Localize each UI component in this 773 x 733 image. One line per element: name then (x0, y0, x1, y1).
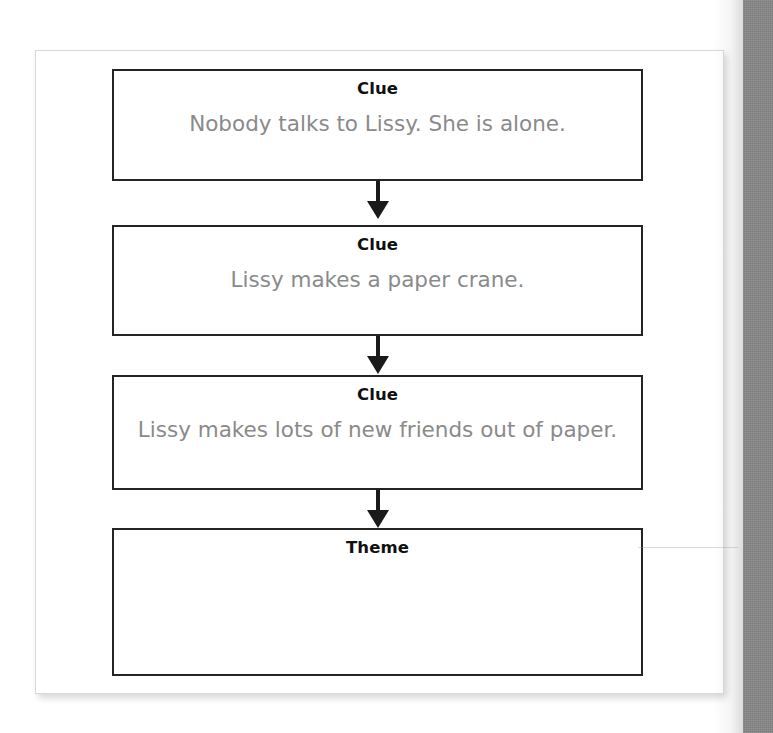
worksheet-card: Clue Nobody talks to Lissy. She is alone… (35, 50, 724, 694)
flow-node-clue-1[interactable]: Clue Nobody talks to Lissy. She is alone… (112, 69, 643, 181)
flow-chart: Clue Nobody talks to Lissy. She is alone… (112, 69, 643, 676)
connector-arrow-3 (112, 490, 643, 528)
page-edge-shadow (714, 0, 744, 733)
flow-node-text: Lissy makes lots of new friends out of p… (126, 416, 629, 444)
scan-gutter-strip (743, 0, 773, 733)
flow-node-label: Clue (126, 79, 629, 100)
flow-node-label: Clue (126, 385, 629, 406)
flow-node-clue-2[interactable]: Clue Lissy makes a paper crane. (112, 225, 643, 336)
scanned-page: Clue Nobody talks to Lissy. She is alone… (0, 0, 773, 733)
flow-node-label: Theme (126, 538, 629, 559)
down-arrow-icon (367, 510, 389, 528)
down-arrow-icon (367, 356, 389, 374)
flow-node-label: Clue (126, 235, 629, 256)
flow-node-text: Lissy makes a paper crane. (126, 266, 629, 294)
down-arrow-icon (367, 201, 389, 219)
flow-node-theme[interactable]: Theme (112, 528, 643, 676)
flow-node-text: Nobody talks to Lissy. She is alone. (126, 110, 629, 138)
connector-arrow-2 (112, 336, 643, 375)
connector-arrow-1 (112, 181, 643, 225)
flow-node-clue-3[interactable]: Clue Lissy makes lots of new friends out… (112, 375, 643, 490)
